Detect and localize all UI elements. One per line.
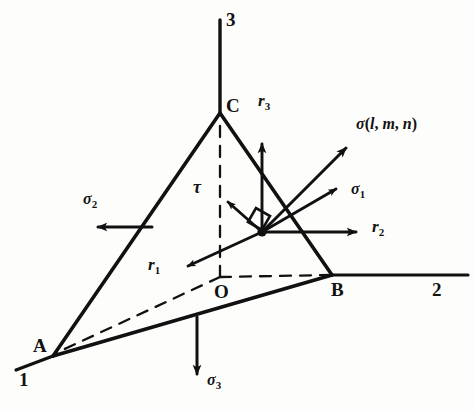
r-3-subscript: 3 xyxy=(265,100,271,112)
dircos-m: m xyxy=(382,115,394,132)
vector-label-sigma-2: σ2 xyxy=(83,191,97,210)
axis-label-2: 2 xyxy=(432,280,442,299)
r-glyph: r xyxy=(148,255,155,274)
r-glyph: r xyxy=(372,217,379,236)
vector-label-r-2: r2 xyxy=(372,218,384,238)
sigma-glyph: σ xyxy=(207,371,216,388)
hidden-edge-ob xyxy=(220,275,330,277)
sigma-3-subscript: 3 xyxy=(216,379,222,391)
vertex-label-o: O xyxy=(214,282,229,301)
vertex-label-a: A xyxy=(33,336,47,355)
sigma-glyph: σ xyxy=(356,115,365,132)
axis-label-1: 1 xyxy=(19,370,29,389)
triangle-edge-ac xyxy=(53,113,220,356)
figure-canvas xyxy=(0,0,474,413)
vector-label-sigma-1: σ1 xyxy=(351,181,365,200)
r-glyph: r xyxy=(258,91,265,110)
vector-line-r1 xyxy=(188,232,262,266)
dircos-n: n xyxy=(403,115,412,132)
sigma-glyph: σ xyxy=(83,190,92,207)
stress-point xyxy=(257,227,266,236)
paren-close: ) xyxy=(412,115,417,132)
sigma-glyph: σ xyxy=(351,180,360,197)
axis-label-3: 3 xyxy=(226,10,236,29)
comma-2: , xyxy=(395,115,403,132)
vertex-label-c: C xyxy=(226,96,240,115)
triangle-edge-cb xyxy=(220,113,332,275)
vector-label-r-3: r3 xyxy=(258,92,270,112)
triangle-edge-ab xyxy=(53,275,332,356)
vector-label-tau: τ xyxy=(193,178,201,196)
sigma-2-subscript: 2 xyxy=(92,198,98,210)
vector-label-r-1: r1 xyxy=(148,256,160,276)
sigma-1-subscript: 1 xyxy=(360,188,366,200)
r-1-subscript: 1 xyxy=(155,264,161,276)
vector-label-sigma-lmn: σ(l, m, n) xyxy=(356,116,417,132)
stress-tetrahedron-figure: 3 2 1 A B C O σ(l, m, n) σ1 σ2 σ3 τ r1 r… xyxy=(0,0,474,413)
vector-label-sigma-3: σ3 xyxy=(207,372,221,391)
vertex-label-b: B xyxy=(331,280,344,299)
vector-line-tau xyxy=(228,202,262,232)
r-2-subscript: 2 xyxy=(379,226,385,238)
axis-line-1 xyxy=(16,356,53,370)
